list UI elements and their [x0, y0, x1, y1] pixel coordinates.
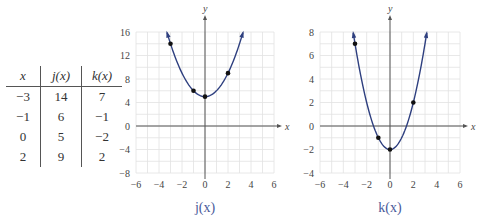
- data-point: [226, 71, 231, 76]
- x-tick-label: −2: [361, 179, 372, 190]
- y-tick-label: 2: [309, 97, 314, 108]
- chart-caption: k(x): [378, 200, 402, 216]
- y-tick-label: 6: [309, 50, 314, 61]
- data-point: [353, 41, 358, 46]
- y-axis-label: y: [202, 3, 208, 14]
- y-tick-label: 0: [309, 121, 314, 132]
- y-tick-label: 0: [125, 121, 130, 132]
- y-tick-label: 12: [120, 50, 130, 61]
- y-tick-label: 8: [309, 27, 314, 38]
- y-tick-label: 8: [125, 74, 130, 85]
- y-tick-label: 4: [309, 74, 314, 85]
- chart-kx: xy−6−4−20246−4−202468k(x): [303, 3, 476, 216]
- y-tick-label: −4: [303, 168, 314, 179]
- x-tick-label: 0: [388, 179, 393, 190]
- x-axis-label: x: [470, 121, 476, 132]
- plots-canvas: xy−6−4−20246−8−40481216j(x)xy−6−4−20246−…: [0, 0, 488, 220]
- data-point: [168, 41, 173, 46]
- y-axis-arrow-icon: [388, 15, 392, 20]
- x-tick-label: 6: [272, 179, 277, 190]
- chart-caption: j(x): [194, 200, 216, 216]
- x-tick-label: −6: [131, 179, 142, 190]
- data-point: [191, 88, 196, 93]
- x-tick-label: 4: [434, 179, 439, 190]
- x-axis-arrow-icon: [277, 124, 282, 128]
- data-point: [411, 100, 416, 105]
- data-point: [203, 94, 208, 99]
- data-point: [376, 135, 381, 140]
- x-tick-label: −4: [338, 179, 349, 190]
- y-tick-label: −2: [303, 144, 314, 155]
- x-tick-label: 0: [203, 179, 208, 190]
- x-tick-label: 2: [411, 179, 416, 190]
- y-tick-label: −8: [119, 168, 130, 179]
- x-axis-arrow-icon: [463, 124, 468, 128]
- chart-jx: xy−6−4−20246−8−40481216j(x): [119, 3, 290, 216]
- y-tick-label: −4: [119, 144, 130, 155]
- x-tick-label: 2: [226, 179, 231, 190]
- y-tick-label: 4: [125, 97, 130, 108]
- x-tick-label: −2: [177, 179, 188, 190]
- y-axis-label: y: [387, 3, 393, 14]
- data-point: [388, 147, 393, 152]
- x-tick-label: 4: [249, 179, 254, 190]
- y-tick-label: 16: [120, 27, 130, 38]
- x-tick-label: −6: [315, 179, 326, 190]
- x-tick-label: −4: [154, 179, 165, 190]
- x-axis-label: x: [284, 121, 290, 132]
- x-tick-label: 6: [458, 179, 463, 190]
- y-axis-arrow-icon: [203, 15, 207, 20]
